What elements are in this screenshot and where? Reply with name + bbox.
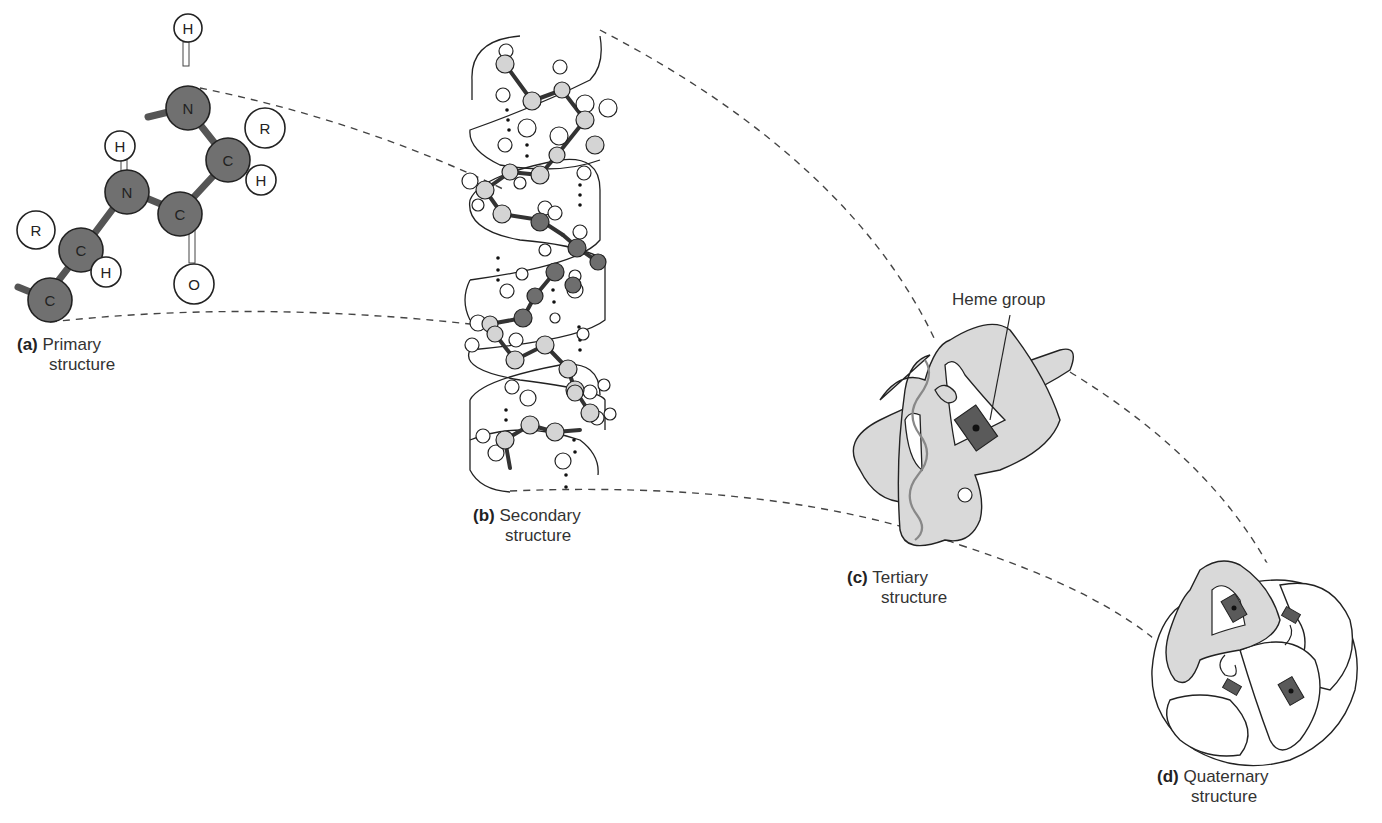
connector-a-b-bottom xyxy=(50,311,470,324)
panel-subtitle: structure xyxy=(17,355,115,375)
connector-lines xyxy=(50,30,1285,648)
heme-group-label: Heme group xyxy=(952,290,1046,310)
svg-text:H: H xyxy=(115,138,126,155)
tertiary-structure-ribbon xyxy=(853,315,1073,546)
panel-letter: (d) xyxy=(1157,767,1179,786)
connector-c-d-bottom xyxy=(960,545,1165,648)
svg-text:O: O xyxy=(188,276,200,293)
svg-text:H: H xyxy=(256,172,267,189)
panel-subtitle: structure xyxy=(1157,787,1269,807)
panel-label-tertiary: (c) Tertiary structure xyxy=(847,568,947,608)
panel-title: Tertiary xyxy=(872,568,928,587)
panel-label-secondary: (b) Secondary structure xyxy=(473,506,581,546)
panel-label-primary: (a) Primary structure xyxy=(17,335,115,375)
panel-letter: (c) xyxy=(847,568,868,587)
protein-structure-diagram: H N R C H H N C R C H O C xyxy=(0,0,1382,823)
connector-b-c-top xyxy=(600,30,935,340)
panel-title: Primary xyxy=(43,335,102,354)
svg-text:N: N xyxy=(183,100,194,117)
svg-text:H: H xyxy=(101,264,112,281)
panel-title: Secondary xyxy=(499,506,580,525)
panel-letter: (b) xyxy=(473,506,495,525)
quaternary-structure-ribbon xyxy=(1147,561,1363,778)
svg-text:C: C xyxy=(175,206,186,223)
svg-text:N: N xyxy=(122,184,133,201)
svg-text:C: C xyxy=(76,242,87,259)
atom-h: H xyxy=(183,20,194,37)
panel-label-quaternary: (d) Quaternary structure xyxy=(1157,767,1269,807)
svg-text:C: C xyxy=(223,152,234,169)
svg-text:R: R xyxy=(31,222,42,239)
primary-structure-molecule: H N R C H H N C R C H O C xyxy=(17,14,285,322)
panel-letter: (a) xyxy=(17,335,38,354)
panel-subtitle: structure xyxy=(847,588,947,608)
secondary-structure-helix xyxy=(462,36,617,492)
svg-text:C: C xyxy=(45,292,56,309)
svg-text:R: R xyxy=(260,120,271,137)
panel-subtitle: structure xyxy=(473,526,581,546)
panel-title: Quaternary xyxy=(1183,767,1268,786)
